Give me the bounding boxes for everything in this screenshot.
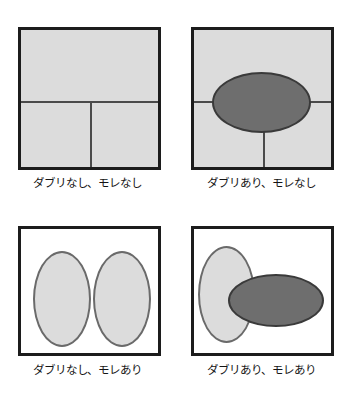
panel-no-overlap-no-gap: ダブリなし、モレなし	[0, 0, 175, 200]
divider-vertical-lower	[90, 101, 92, 167]
light-vertical-ellipse-left	[33, 251, 91, 347]
panel-caption: ダブリあり、モレあり	[174, 363, 349, 378]
panel-frame	[18, 226, 161, 356]
dark-horizontal-ellipse	[212, 72, 311, 133]
dark-horizontal-ellipse	[228, 274, 324, 327]
panel-frame	[191, 226, 334, 356]
panel-no-overlap-gap: ダブリなし、モレあり	[0, 200, 175, 405]
panel-frame	[191, 27, 334, 170]
panel-frame	[18, 27, 161, 170]
panel-caption: ダブリなし、モレなし	[0, 176, 175, 191]
light-vertical-ellipse-right	[93, 251, 151, 347]
panel-overlap-no-gap: ダブリあり、モレなし	[174, 0, 349, 200]
panel-caption: ダブリなし、モレあり	[0, 363, 175, 378]
panel-overlap-gap: ダブリあり、モレあり	[174, 200, 349, 405]
panel-caption: ダブリあり、モレなし	[174, 176, 349, 191]
mece-diagram: ダブリなし、モレなし ダブリあり、モレなし ダブリなし、モレあり ダブリあり、モ…	[0, 0, 349, 405]
